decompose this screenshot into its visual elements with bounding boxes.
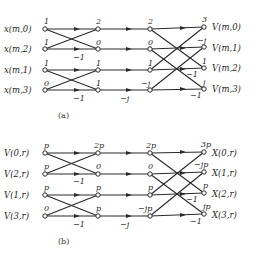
node-value: −jp xyxy=(194,160,208,169)
output-label: V(m,2) xyxy=(212,63,241,73)
node-value: −j xyxy=(141,79,151,88)
figure-b-edges xyxy=(45,150,204,218)
butterfly-diagrams: x(m,0) x(m,2) x(m,1) x(m,3) 1 1 1 0 2 0 … xyxy=(0,0,256,265)
node-value: 1 xyxy=(202,57,207,66)
multiplier: −1 xyxy=(186,70,198,79)
node-value: −j xyxy=(197,36,207,45)
node-value: 1 xyxy=(44,59,49,68)
node-value: 0 xyxy=(148,38,153,47)
node-value: p xyxy=(203,181,208,190)
input-label: x(m,1) xyxy=(4,65,32,75)
node-value: p xyxy=(44,162,49,171)
node-value: 3p xyxy=(201,140,211,149)
caption-a: (a) xyxy=(58,111,69,120)
figure-a: x(m,0) x(m,2) x(m,1) x(m,3) 1 1 1 0 2 0 … xyxy=(4,15,241,120)
input-label: V(2,r) xyxy=(4,169,29,179)
figure-a-edges xyxy=(45,26,204,92)
node-value: p xyxy=(44,183,49,192)
caption-b: (b) xyxy=(58,237,69,246)
node-value: 0 xyxy=(96,38,101,47)
node-value: 1 xyxy=(44,17,49,26)
input-label: x(m,0) xyxy=(4,24,32,34)
output-label: X(1,r) xyxy=(211,168,237,178)
node-value: j xyxy=(201,78,206,87)
node-value: 0 xyxy=(148,162,153,171)
node-value: p xyxy=(96,183,101,192)
output-label: V(m,1) xyxy=(212,43,241,53)
multiplier: −1 xyxy=(73,177,85,186)
multiplier: −j xyxy=(120,94,130,103)
output-label: X(0,r) xyxy=(211,148,237,158)
multiplier: −1 xyxy=(190,91,202,100)
output-label: V(m,0) xyxy=(212,22,241,32)
node-value: 1 xyxy=(148,59,153,68)
node-value: −jp xyxy=(138,204,152,213)
node-value: 0 xyxy=(96,162,101,171)
node-value: 1 xyxy=(96,79,101,88)
node-value: 1 xyxy=(44,38,49,47)
input-label: V(0,r) xyxy=(4,148,29,158)
node-value: p xyxy=(148,183,153,192)
figure-b-nodes xyxy=(43,150,206,218)
node-value: 3 xyxy=(202,15,207,24)
multiplier: −1 xyxy=(186,195,198,204)
output-label: X(2,r) xyxy=(211,189,237,199)
node-value: 2 xyxy=(95,17,101,26)
figure-b: V(0,r) V(2,r) V(1,r) V(3,r) p p p 0 2p 0… xyxy=(4,140,237,246)
node-value: 2p xyxy=(93,141,104,150)
node-value: 2p xyxy=(145,141,156,150)
node-value: p xyxy=(96,204,101,213)
input-label: V(1,r) xyxy=(4,190,29,200)
input-label: x(m,2) xyxy=(4,44,32,54)
multiplier: −j xyxy=(120,220,130,229)
output-label: X(3,r) xyxy=(211,210,237,220)
multiplier: −1 xyxy=(73,53,85,62)
node-value: 1 xyxy=(96,59,101,68)
input-label: x(m,3) xyxy=(4,85,32,95)
node-value: p xyxy=(44,141,49,150)
output-label: V(m,3) xyxy=(212,84,241,94)
node-value: 0 xyxy=(44,79,49,88)
multiplier: −1 xyxy=(73,94,85,103)
node-value: 2 xyxy=(147,17,153,26)
input-label: V(3,r) xyxy=(4,211,29,221)
multiplier: −1 xyxy=(73,220,85,229)
multiplier: −1 xyxy=(190,217,202,226)
node-value: 0 xyxy=(44,204,49,213)
node-value: jp xyxy=(201,202,211,211)
